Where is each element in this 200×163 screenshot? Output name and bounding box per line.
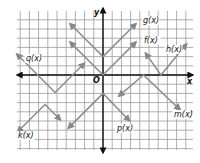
label-qx: q(x) (26, 54, 42, 63)
label-kx: k(x) (18, 131, 34, 140)
label-gx: g(x) (143, 16, 159, 25)
label-hx: h(x) (166, 45, 182, 54)
label-fx: f(x) (144, 36, 158, 45)
label-mx: m(x) (174, 110, 193, 119)
curve-kx (17, 104, 60, 132)
x-axis-label: x (186, 77, 193, 86)
label-px: p(x) (116, 124, 133, 133)
origin-label: O (93, 76, 100, 85)
y-axis-label: y (94, 8, 100, 17)
function-graph: xyO f(x)g(x)h(x)m(x)p(x)q(x)k(x) (0, 0, 200, 163)
curve-mx (119, 75, 181, 110)
function-curves (17, 23, 187, 132)
